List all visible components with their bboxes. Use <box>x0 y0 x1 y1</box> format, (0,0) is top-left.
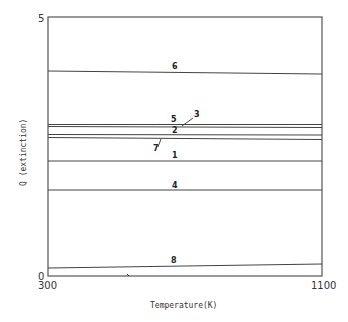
curve-2 <box>48 135 322 136</box>
y-axis-label: Q (extinction) <box>19 119 28 186</box>
curve-label-8: 8 <box>171 256 177 265</box>
curve-label-6: 6 <box>172 62 178 71</box>
plot-frame <box>48 17 322 276</box>
curve-3 <box>48 127 322 128</box>
curve-label-3: 3 <box>194 110 200 119</box>
curve-7 <box>48 138 322 140</box>
x-axis-label: Temperature(K) <box>150 301 217 310</box>
curve-label-4: 4 <box>172 181 178 190</box>
x-tick-left: 300 <box>38 280 57 291</box>
x-tick-right: 1100 <box>311 280 336 291</box>
chart: 6 5 3 2 7 1 4 8 5 0 300 1100 Temperature… <box>0 0 348 322</box>
curve-8 <box>48 264 322 268</box>
y-tick-top: 5 <box>38 13 44 24</box>
curve-label-7: 7 <box>153 144 159 153</box>
curve-label-2: 2 <box>172 126 178 135</box>
curve-label-1: 1 <box>172 151 178 160</box>
curve-6 <box>48 71 322 74</box>
curve-label-5: 5 <box>171 115 177 124</box>
